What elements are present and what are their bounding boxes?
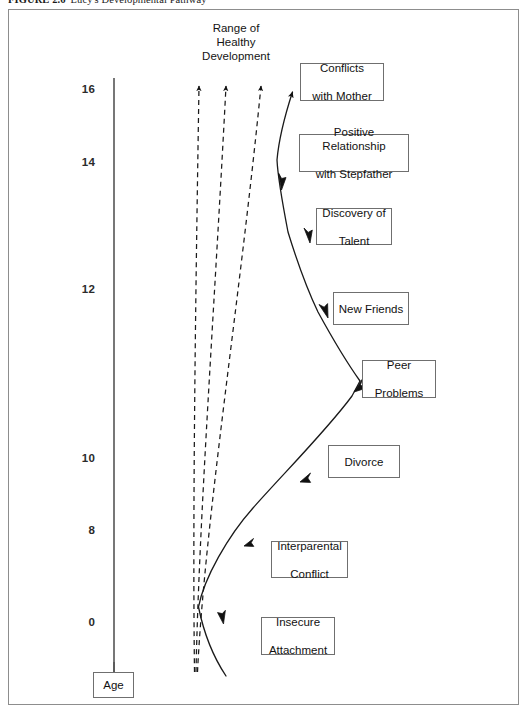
healthy-range-arrow-left [194,86,199,672]
event-box-insecure-attachment[interactable]: Insecure Attachment [261,617,335,655]
event-line1-interparental-conflict: Interparental [277,539,342,553]
event-line2-positive-relationship: with Stepfather [304,167,404,181]
event-line2-interparental-conflict: Conflict [277,567,342,581]
event-line2-discovery-of-talent: Talent [322,234,385,248]
event-line1-discovery-of-talent: Discovery of [322,206,385,220]
event-line2-conflicts-with-mother: with Mother [312,89,371,103]
event-box-discovery-of-talent[interactable]: Discovery of Talent [316,208,392,245]
event-box-interparental-conflict[interactable]: Interparental Conflict [271,541,348,578]
healthy-range-arrow-middle [196,86,226,672]
age-axis-label-box: Age [93,672,134,698]
event-box-new-friends[interactable]: New Friends [333,292,409,325]
healthy-range-heading: Range of Healthy Development [176,21,296,63]
event-line1-positive-relationship: Positive Relationship [304,125,404,153]
age-axis-label-text: Age [103,679,123,691]
pathway-arrowhead-divorce [300,473,311,482]
event-line2-insecure-attachment: Attachment [269,643,327,657]
event-line1-peer-problems: Peer [375,358,424,372]
event-box-divorce[interactable]: Divorce [328,445,400,478]
event-box-positive-relationship[interactable]: Positive Relationship with Stepfather [299,134,409,172]
healthy-range-heading-line3: Development [176,49,296,63]
figure-root: FIGURE 2.6Lucy's Developmental Pathway [0,0,529,714]
axis-tick-16: 16 [61,83,95,95]
event-line1-insecure-attachment: Insecure [269,615,327,629]
axis-tick-12: 12 [61,283,95,295]
axis-tick-10: 10 [61,452,95,464]
event-line2-peer-problems: Problems [375,386,424,400]
event-line1-conflicts-with-mother: Conflicts [312,61,371,75]
axis-tick-14: 14 [61,156,95,168]
event-box-conflicts-with-mother[interactable]: Conflicts with Mother [300,63,384,101]
pathway-arrowhead-insecure [218,610,226,624]
healthy-range-heading-line2: Healthy [176,35,296,49]
axis-tick-0: 0 [61,616,95,628]
pathway-arrowhead-interparental [244,539,254,547]
axis-tick-8: 8 [61,524,95,536]
healthy-range-heading-line1: Range of [176,21,296,35]
diagram-canvas [0,0,529,714]
pathway-arrowhead-discovery [304,228,312,243]
event-box-peer-problems[interactable]: Peer Problems [362,360,436,398]
healthy-range-arrow-right [198,86,262,672]
event-line1-new-friends: New Friends [339,302,404,316]
event-line1-divorce: Divorce [345,455,384,469]
